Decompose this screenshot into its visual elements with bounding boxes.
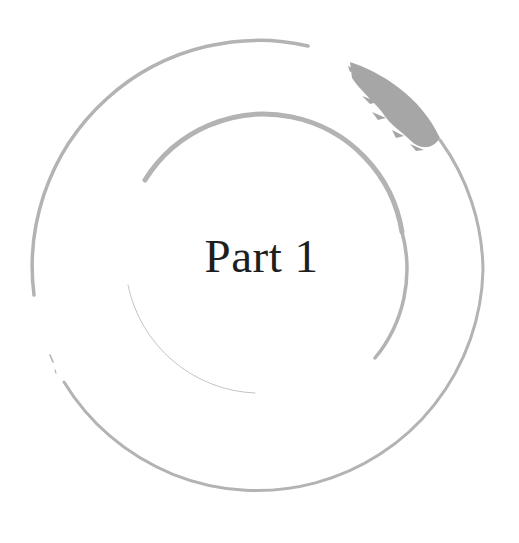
inner-thin-tail [128, 285, 255, 393]
chapter-divider-page: Part 1 [0, 0, 519, 543]
inner-brush-arc [145, 114, 402, 232]
part-title: Part 1 [0, 226, 519, 286]
outer-brush-circle-lower [64, 140, 483, 491]
brush-splatter [348, 62, 440, 151]
